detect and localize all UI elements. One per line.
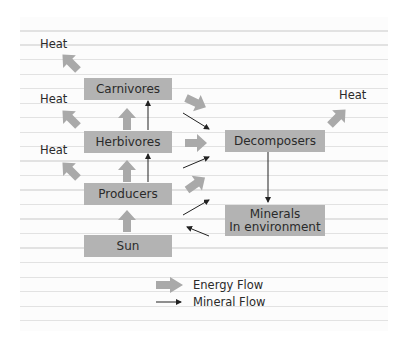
carnivores-node: Carnivores	[84, 78, 172, 100]
minerals-node: Minerals In environment	[225, 205, 325, 236]
minerals-line-2: In environment	[229, 221, 320, 234]
energy-arrow-producers-herbivores-icon	[118, 160, 136, 182]
heat-arrow-carnivores-icon	[56, 48, 84, 76]
decomposers-node: Decomposers	[225, 130, 325, 152]
legend-energy-flow-label: Energy Flow	[193, 278, 263, 292]
producers-node: Producers	[84, 183, 172, 205]
heat-arrow-producers-icon	[56, 156, 84, 184]
energy-arrow-producers-decomposers-icon	[182, 170, 210, 197]
herbivores-node: Herbivores	[84, 131, 172, 153]
heat-label: Heat	[40, 92, 67, 106]
mineral-arrow-carnivores-decomposers-icon	[183, 113, 209, 129]
legend-mineral-flow-label: Mineral Flow	[193, 295, 265, 309]
flow-arrows	[0, 0, 405, 344]
energy-arrow-sun-producers-icon	[118, 210, 136, 232]
mineral-arrow-sun-minerals-icon	[187, 227, 209, 236]
heat-arrow-decomposers-icon	[324, 103, 352, 131]
legend-energy-arrow-icon	[156, 277, 183, 293]
mineral-arrow-herbivores-decomposers-icon	[183, 157, 209, 168]
energy-arrow-herbivores-carnivores-icon	[118, 108, 136, 130]
minerals-line-1: Minerals	[250, 208, 301, 221]
heat-label: Heat	[339, 88, 366, 102]
energy-arrow-herbivores-decomposers-icon	[185, 134, 207, 152]
energy-arrow-carnivores-decomposers-icon	[182, 90, 210, 116]
sun-node: Sun	[84, 235, 172, 257]
heat-label: Heat	[40, 37, 67, 51]
mineral-arrow-producers-decomposers-icon	[183, 200, 209, 215]
heat-arrow-herbivores-icon	[56, 104, 84, 132]
heat-label: Heat	[40, 143, 67, 157]
